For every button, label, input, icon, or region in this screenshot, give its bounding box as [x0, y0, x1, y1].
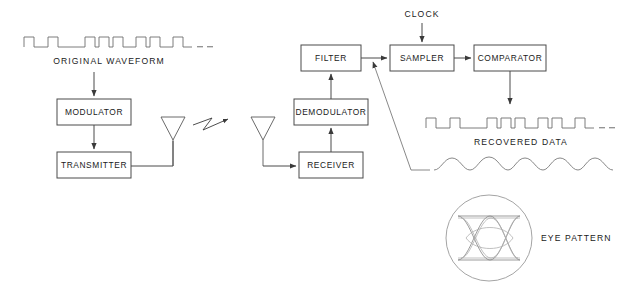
receiver-label: RECEIVER	[307, 160, 355, 170]
recovered-continuation-dash-1	[599, 127, 605, 128]
eye-pattern-label: EYE PATTERN	[541, 233, 612, 243]
waveform-continuation-dash-1	[197, 46, 203, 47]
recovered-data-trace	[426, 118, 594, 128]
modulator-label: MODULATOR	[65, 107, 123, 117]
communication-system-diagram: ORIGINAL WAVEFORM MODULATOR TRANSMITTER	[0, 0, 636, 299]
waveform-continuation-dash-2	[207, 46, 213, 47]
eye-ghost-falling-1	[461, 218, 491, 258]
analog-callout-line	[373, 62, 411, 170]
line-transmitter-to-antenna	[131, 141, 173, 166]
block-transmitter: TRANSMITTER	[57, 152, 131, 178]
analog-waveform-trace	[434, 157, 613, 170]
filtered-analog-signal	[373, 62, 613, 170]
tx-antenna-icon	[161, 117, 185, 166]
recovered-data-signal	[426, 118, 615, 128]
eye-ghost-falling-2	[491, 218, 518, 258]
original-waveform-trace	[24, 37, 192, 47]
original-waveform-signal	[24, 37, 213, 47]
recovered-data-label: RECOVERED DATA	[474, 137, 568, 147]
recovered-continuation-dash-2	[609, 127, 615, 128]
rx-antenna-icon	[251, 117, 275, 166]
block-comparator: COMPARATOR	[474, 45, 546, 71]
eye-transition-rising-2	[490, 216, 520, 260]
block-receiver: RECEIVER	[299, 152, 363, 178]
eye-ghost-rising-2	[491, 218, 518, 258]
block-sampler: SAMPLER	[390, 45, 454, 71]
diagram-canvas: ORIGINAL WAVEFORM MODULATOR TRANSMITTER	[0, 0, 636, 299]
eye-transition-falling-2	[490, 216, 520, 260]
sampler-label: SAMPLER	[400, 53, 444, 63]
block-modulator: MODULATOR	[57, 99, 131, 125]
transmitter-label: TRANSMITTER	[61, 160, 127, 170]
eye-pattern-diagram	[446, 195, 532, 281]
comparator-label: COMPARATOR	[478, 53, 543, 63]
eye-transition-falling-1	[458, 216, 490, 260]
clock-label: CLOCK	[404, 9, 439, 19]
block-filter: FILTER	[301, 45, 361, 71]
filter-label: FILTER	[315, 53, 347, 63]
block-demodulator: DEMODULATOR	[294, 99, 368, 125]
demodulator-label: DEMODULATOR	[296, 107, 367, 117]
original-waveform-label: ORIGINAL WAVEFORM	[53, 56, 165, 66]
rf-lightning-bolt-icon	[193, 118, 228, 130]
eye-pattern-circle	[446, 195, 532, 281]
